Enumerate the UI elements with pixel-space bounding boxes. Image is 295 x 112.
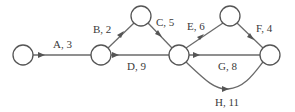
label-g: G, 8: [218, 60, 237, 72]
network-diagram: A, 3 B, 2 C, 5 D, 9 E, 6 F, 4 G, 8 H, 11: [0, 0, 295, 112]
arrow-icon: [193, 52, 200, 58]
label-d: D, 9: [127, 60, 146, 72]
arrow-icon: [222, 86, 229, 92]
label-c: C, 5: [156, 16, 175, 28]
node-2: [91, 45, 111, 65]
node-1: [13, 45, 33, 65]
node-6: [260, 45, 280, 65]
edge-labels: A, 3 B, 2 C, 5 D, 9 E, 6 F, 4 G, 8 H, 11: [53, 16, 273, 108]
arrow-icon: [38, 52, 45, 58]
label-h: H, 11: [215, 96, 239, 108]
node-5: [220, 6, 240, 26]
label-b: B, 2: [93, 23, 111, 35]
label-e: E, 6: [187, 20, 205, 32]
label-a: A, 3: [53, 38, 72, 50]
nodes: [13, 6, 280, 65]
node-3: [131, 6, 151, 26]
arrow-icon: [112, 52, 119, 58]
label-f: F, 4: [256, 22, 273, 34]
edges: [33, 23, 263, 92]
node-4: [169, 45, 189, 65]
